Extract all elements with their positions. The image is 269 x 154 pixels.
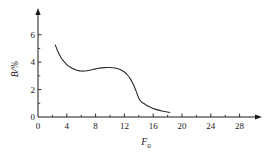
y-tick-label: 2 (27, 85, 35, 94)
y-axis-title: B/% (11, 61, 21, 77)
x-tick-label: 20 (178, 122, 187, 131)
axes-group (35, 8, 262, 120)
x-axis-arrow (255, 114, 262, 119)
y-tick-label: 6 (27, 30, 35, 39)
y-axis-arrow (35, 8, 40, 15)
x-tick-label: 28 (235, 122, 244, 131)
ticks-group (38, 35, 240, 117)
x-tick-label: 0 (36, 122, 41, 131)
x-axis-title-subscript: 0 (147, 142, 151, 150)
x-tick-label: 16 (149, 122, 158, 131)
x-tick-label: 4 (65, 122, 70, 131)
chart-figure: 04812162024280246 F0 B/% (0, 0, 269, 154)
series-line (55, 45, 169, 112)
series-group (55, 45, 169, 112)
x-tick-label: 8 (93, 122, 98, 131)
x-axis-title: F0 (141, 137, 151, 150)
x-tick-label: 12 (120, 122, 129, 131)
y-tick-label: 0 (27, 113, 35, 122)
x-tick-label: 24 (206, 122, 215, 131)
y-tick-label: 4 (27, 58, 35, 67)
